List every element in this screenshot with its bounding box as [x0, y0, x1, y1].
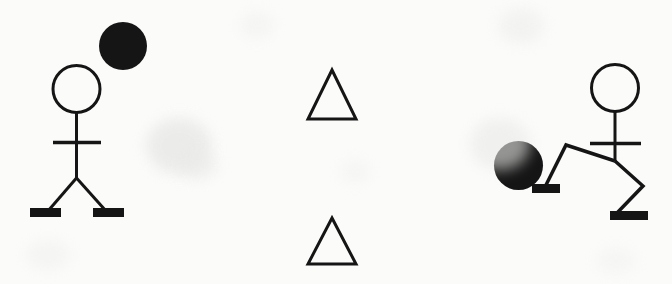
kicking-stick-figure — [494, 65, 648, 216]
standing-stick-figure — [30, 22, 147, 213]
standing-figure-left-leg — [48, 178, 77, 211]
kicking-figure-support-leg — [615, 161, 643, 214]
stick-figure-scene-svg — [0, 0, 672, 284]
upper-triangle-icon — [308, 70, 356, 119]
drawing-canvas — [0, 0, 672, 284]
ball-in-air-icon — [99, 22, 147, 70]
standing-figure-head-icon — [53, 66, 100, 113]
ball-at-foot-icon — [494, 141, 543, 190]
standing-figure-right-leg — [77, 178, 107, 211]
triangle-group — [308, 70, 356, 264]
kicking-figure-kicking-leg — [545, 145, 615, 187]
kicking-figure-head-icon — [592, 65, 639, 112]
lower-triangle-icon — [308, 218, 356, 264]
